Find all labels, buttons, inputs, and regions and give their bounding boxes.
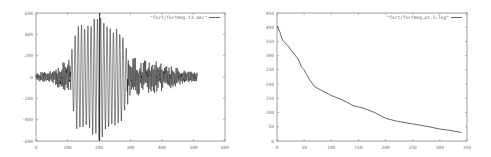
- decay-legend-label: "fort/fortmeg.pt.5.log": [387, 15, 449, 20]
- waveform-series-line: [36, 18, 197, 140]
- decay-y-tick-label: 350: [266, 39, 274, 44]
- waveform-x-tick-label: 0: [35, 145, 38, 150]
- waveform-y-tick-label: 200: [25, 53, 33, 58]
- waveform-x-tick-label: 100: [63, 145, 71, 150]
- decay-x-tick-label: 200: [382, 145, 390, 150]
- decay-y-tick-label: 250: [266, 67, 274, 72]
- waveform-x-tick-label: 400: [158, 145, 166, 150]
- waveform-y-tick-label: -600: [22, 139, 33, 144]
- decay-y-tick-label: 150: [266, 96, 274, 101]
- decay-y-tick-label: 50: [269, 124, 275, 129]
- decay-y-tick-label: 450: [266, 11, 274, 16]
- waveform-x-tick-label: 500: [189, 145, 197, 150]
- decay-y-tick-label: 100: [266, 110, 274, 115]
- decay-chart-svg: 0501001502002503003500501001502002503003…: [245, 0, 491, 157]
- decay-plot-border: [277, 13, 467, 141]
- waveform-chart-svg: 01002003004005006006004002000-200-400-60…: [0, 0, 245, 157]
- decay-x-tick-label: 350: [463, 145, 471, 150]
- decay-y-tick-label: 0: [271, 139, 274, 144]
- waveform-x-tick-label: 200: [95, 145, 103, 150]
- waveform-x-tick-label: 600: [221, 145, 229, 150]
- decay-y-tick-label: 200: [266, 82, 274, 87]
- waveform-y-tick-label: 600: [25, 11, 33, 16]
- waveform-legend-label: "fort/fortmeg.t3.asc": [150, 15, 207, 20]
- decay-y-tick-label: 400: [266, 25, 274, 30]
- decay-x-tick-label: 0: [276, 145, 279, 150]
- waveform-x-tick-label: 300: [126, 145, 134, 150]
- decay-x-tick-label: 300: [436, 145, 444, 150]
- waveform-chart: 01002003004005006006004002000-200-400-60…: [0, 0, 245, 157]
- decay-y-tick-label: 300: [266, 53, 274, 58]
- waveform-y-tick-label: -400: [22, 117, 33, 122]
- decay-x-tick-label: 50: [301, 145, 307, 150]
- decay-series-line: [277, 26, 462, 133]
- waveform-y-tick-label: -200: [22, 96, 33, 101]
- waveform-y-tick-label: 400: [25, 32, 33, 37]
- waveform-y-tick-label: 0: [30, 75, 33, 80]
- decay-x-tick-label: 250: [409, 145, 417, 150]
- decay-x-tick-label: 150: [354, 145, 362, 150]
- decay-x-tick-label: 100: [327, 145, 335, 150]
- decay-chart: 0501001502002503003500501001502002503003…: [245, 0, 491, 157]
